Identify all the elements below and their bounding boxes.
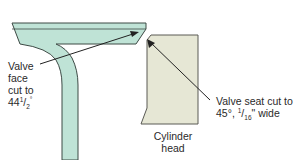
valve-seat-angle: 45°, bbox=[216, 107, 238, 119]
valve-face-angle-num: 1 bbox=[20, 96, 24, 103]
valve-face-label: Valve face cut to 441/2° bbox=[8, 60, 34, 108]
valve-face-angle-den: 2 bbox=[26, 103, 30, 110]
valve-face-label-line2: face bbox=[8, 72, 34, 84]
cylinder-head-label-line1: Cylinder bbox=[147, 130, 199, 142]
valve-seat-label-line1: Valve seat cut to bbox=[216, 95, 293, 107]
degree-symbol: ° bbox=[30, 96, 33, 103]
valve-seat-label-line2: 45°, 1/16" wide bbox=[216, 107, 293, 119]
cylinder-head-label: Cylinder head bbox=[147, 130, 199, 154]
valve-face-angle-whole: 44 bbox=[8, 96, 20, 108]
valve-face-label-line4: 441/2° bbox=[8, 96, 34, 108]
valve-face-label-line1: Valve bbox=[8, 60, 34, 72]
valve-seat-width-den: 16 bbox=[244, 114, 251, 121]
cylinder-head-label-line2: head bbox=[147, 142, 199, 154]
valve-face-label-line3: cut to bbox=[8, 84, 34, 96]
valve-seat-label: Valve seat cut to 45°, 1/16" wide bbox=[216, 95, 293, 119]
valve-seat-width-unit: " wide bbox=[252, 107, 280, 119]
valve-seat-width-num: 1 bbox=[238, 107, 242, 114]
